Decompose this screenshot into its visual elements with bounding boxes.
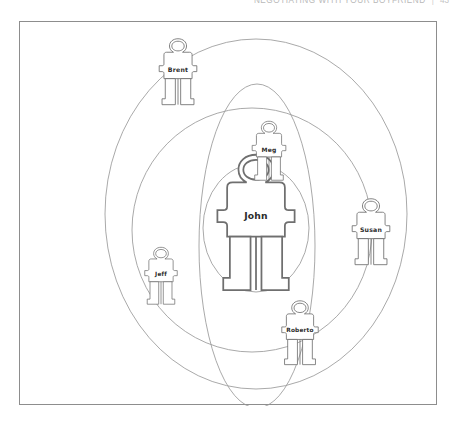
person-glyph-meg: [249, 120, 288, 183]
running-head-separator: |: [432, 0, 434, 5]
page-number: 43: [440, 0, 449, 5]
person-figure-roberto[interactable]: Roberto: [279, 299, 321, 367]
person-glyph-jeff: [142, 246, 180, 307]
person-glyph-roberto: [279, 299, 321, 367]
person-figure-brent[interactable]: Brent: [156, 37, 200, 107]
person-glyph-brent: [156, 37, 200, 107]
running-head-title: NEGOTIATING WITH YOUR BOYFRIEND: [254, 0, 426, 5]
running-head: NEGOTIATING WITH YOUR BOYFRIEND | 43: [0, 0, 457, 14]
person-figure-jeff[interactable]: Jeff: [142, 246, 180, 307]
person-glyph-susan: [349, 197, 393, 267]
person-figure-susan[interactable]: Susan: [349, 197, 393, 267]
person-figure-meg[interactable]: Meg: [249, 120, 288, 183]
figure-frame: JohnMegJeffRobertoSusanBrent: [19, 21, 437, 405]
